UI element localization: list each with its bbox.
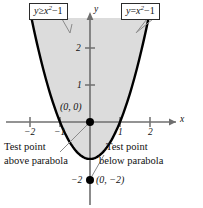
point-origin	[86, 118, 94, 126]
inequality-constant: 1	[58, 5, 63, 16]
x-tick-label-neg2: −2	[24, 127, 35, 137]
y-tick-label-neg2: −2	[71, 175, 82, 185]
x-tick-label-2: 2	[148, 127, 153, 137]
point-label-origin: (0, 0)	[60, 101, 82, 112]
x-tick-label-1: 1	[118, 127, 123, 137]
annotation-below-line1: Test point	[106, 141, 148, 153]
point-label-zero-minus-two: (0, −2)	[96, 174, 124, 185]
annotation-above-line1: Test point	[4, 141, 46, 153]
annotation-above-line2: above parabola	[4, 155, 68, 167]
y-axis-label: y	[94, 4, 98, 14]
equation-constant: 1	[150, 5, 155, 16]
equation-label-box: y=x2−1	[121, 3, 160, 20]
x-tick-label-neg1: −1	[54, 127, 65, 137]
point-zero-minus-two	[86, 176, 94, 184]
y-tick-label-2: 2	[76, 43, 81, 53]
x-axis-label: x	[180, 114, 184, 124]
inequality-label-box: y≥x2−1	[29, 3, 68, 20]
y-tick-label-1: 1	[77, 80, 82, 90]
figure-inequality-parabola: y≥x2−1 y=x2−1 x y −2 −1 1 2 2 1 −2 (0, 0…	[0, 0, 203, 208]
annotation-below-line2: below parabola	[99, 155, 163, 167]
